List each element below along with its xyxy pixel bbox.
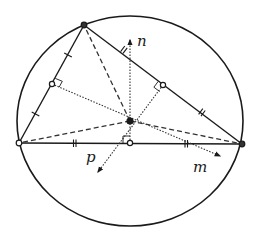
right-angle-ab [55, 78, 62, 87]
midpoint-ac [160, 82, 165, 87]
vertex-b [16, 140, 22, 146]
vertex-c [239, 141, 245, 147]
label-m: m [193, 160, 207, 175]
label-p: p [86, 150, 96, 165]
circumcenter-point [127, 118, 133, 124]
diagram-canvas: n p m [0, 0, 255, 240]
vertex-a [81, 22, 87, 28]
tick-ac-upper-2 [123, 48, 127, 54]
bisector-p [98, 85, 163, 172]
perpendicular-bisectors [52, 40, 220, 172]
radius-oa [84, 25, 130, 121]
midpoint-bc [127, 140, 132, 145]
geometry-figure [0, 0, 255, 240]
bisector-m [52, 84, 220, 156]
midpoint-ab [49, 81, 54, 86]
tick-ac-upper-1 [121, 46, 125, 52]
radius-ob [19, 121, 130, 143]
label-n: n [137, 34, 147, 49]
